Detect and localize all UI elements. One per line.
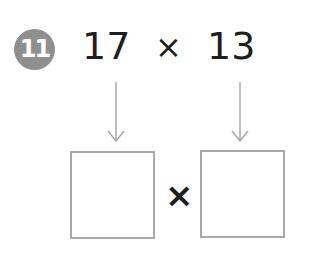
answer-multiply-sign: ×	[165, 178, 194, 212]
arrow-down-icon	[230, 80, 250, 144]
left-operand: 17	[82, 24, 130, 68]
problem-number-badge: 11	[14, 29, 55, 70]
left-answer-box[interactable]	[70, 151, 155, 239]
arrow-down-icon	[106, 80, 126, 144]
right-operand: 13	[207, 24, 255, 68]
multiply-sign: ×	[155, 28, 182, 66]
right-answer-box[interactable]	[200, 150, 285, 238]
